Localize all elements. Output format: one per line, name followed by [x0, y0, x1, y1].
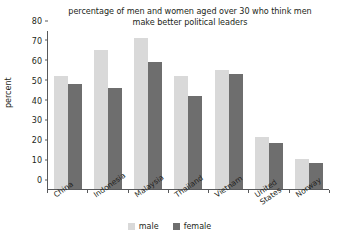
x-tick: [329, 190, 330, 193]
legend-label: female: [184, 222, 212, 231]
y-tick-label: 70: [26, 36, 42, 45]
legend-item-female: female: [173, 222, 212, 231]
bar-malaysia-female: [148, 62, 162, 189]
y-tick-label: 80: [26, 17, 42, 26]
bar-vietnam-female: [229, 74, 243, 189]
y-tick-40: 40: [26, 96, 48, 105]
y-tick-50: 50: [26, 76, 48, 85]
y-tick-label: 50: [26, 76, 42, 85]
y-tick-60: 60: [26, 56, 48, 65]
y-tick-label: 60: [26, 56, 42, 65]
bar-group: [128, 31, 168, 189]
bar-group: [289, 31, 329, 189]
y-tick-mark: [45, 20, 48, 21]
chart-title: percentage of men and women aged over 30…: [48, 6, 332, 28]
bar-group: [249, 31, 289, 189]
bar-groups: [48, 31, 329, 189]
bar-china-female: [68, 84, 82, 189]
legend-swatch-female: [173, 223, 180, 230]
y-tick-0: 0: [26, 176, 48, 185]
y-tick-label: 40: [26, 96, 42, 105]
bar-group: [209, 31, 249, 189]
y-tick-30: 30: [26, 116, 48, 125]
y-tick-label: 0: [26, 176, 42, 185]
plot-area: 01020304050607080: [47, 31, 329, 190]
y-tick-label: 10: [26, 156, 42, 165]
bar-group: [48, 31, 88, 189]
legend-item-male: male: [128, 222, 159, 231]
chart-title-line-1: percentage of men and women aged over 30…: [68, 6, 311, 16]
bar-chart: percentage of men and women aged over 30…: [0, 0, 339, 241]
y-tick-label: 30: [26, 116, 42, 125]
legend-swatch-male: [128, 223, 135, 230]
y-tick-20: 20: [26, 136, 48, 145]
y-tick-10: 10: [26, 156, 48, 165]
y-axis-label: percent: [4, 77, 13, 108]
x-axis-labels: ChinaIndonesiaMalaysiaThailandVietnamUni…: [47, 192, 329, 226]
y-tick-70: 70: [26, 36, 48, 45]
chart-title-line-2: make better political leaders: [133, 17, 248, 27]
legend-label: male: [139, 222, 159, 231]
chart-legend: malefemale: [0, 222, 339, 231]
y-tick-label: 20: [26, 136, 42, 145]
y-tick-80: 80: [26, 17, 48, 26]
bar-china-male: [54, 76, 68, 189]
bar-indonesia-male: [94, 50, 108, 189]
bar-thailand-male: [174, 76, 188, 189]
bar-malaysia-male: [134, 38, 148, 189]
bar-group: [168, 31, 208, 189]
bar-vietnam-male: [215, 70, 229, 189]
bar-group: [88, 31, 128, 189]
